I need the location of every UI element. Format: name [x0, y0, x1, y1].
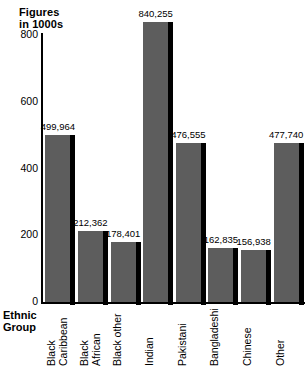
x-tick-label-line: Black other	[111, 313, 123, 366]
bar-shadow	[136, 246, 141, 305]
bar-value-label: 212,362	[61, 218, 119, 228]
bar-black-other[interactable]	[111, 242, 136, 302]
x-tick-label-black-african: BlackAfrican	[79, 333, 102, 366]
bar-chart: Figures in 1000s 0200400600800 499,964Bl…	[0, 0, 306, 368]
bar-pakistani[interactable]	[176, 143, 201, 302]
x-tick-label-line: Other	[274, 340, 286, 366]
bar-shadow	[233, 252, 238, 305]
x-tick-label-chinese: Chinese	[242, 327, 254, 366]
bar-chinese[interactable]	[241, 250, 266, 302]
x-tick-label-line: Pakistani	[176, 323, 188, 366]
x-tick-label-line: Black	[45, 340, 57, 366]
x-tick-label-black-other: Black other	[112, 313, 124, 366]
x-tick-label-line: Indian	[143, 337, 155, 366]
x-tick-label-bangladeshi: Bangladeshi	[209, 308, 221, 366]
bar-bangladeshi[interactable]	[208, 248, 233, 302]
bar-shadow	[266, 254, 271, 305]
x-axis-title-line2: Group	[3, 321, 36, 333]
bar-value-label: 476,555	[159, 130, 217, 140]
bar-shadow	[103, 235, 108, 305]
x-axis-title-line1: Ethnic	[3, 309, 37, 321]
bar-shadow	[168, 26, 173, 305]
bar-shadow	[201, 147, 206, 305]
bars-layer: 499,964BlackCaribbean212,362BlackAfrican…	[0, 0, 306, 368]
bar-other[interactable]	[274, 143, 299, 302]
bar-shadow	[299, 147, 304, 305]
x-tick-label-other: Other	[275, 340, 287, 366]
x-tick-label-black-caribbean: BlackCaribbean	[46, 318, 69, 366]
bar-indian[interactable]	[143, 22, 168, 302]
x-axis-title: Ethnic Group	[3, 309, 37, 333]
x-tick-label-line: Black	[78, 340, 90, 366]
bar-value-label: 499,964	[29, 122, 87, 132]
x-tick-label-line: African	[90, 333, 102, 366]
bar-value-label: 840,255	[127, 9, 185, 19]
bar-black-african[interactable]	[78, 231, 103, 302]
x-tick-label-indian: Indian	[144, 337, 156, 366]
x-tick-label-line: Caribbean	[58, 318, 70, 366]
x-tick-label-line: Chinese	[241, 327, 253, 366]
x-tick-label-pakistani: Pakistani	[177, 323, 189, 366]
x-tick-label-line: Bangladeshi	[208, 308, 220, 366]
bar-value-label: 477,740	[257, 130, 306, 140]
